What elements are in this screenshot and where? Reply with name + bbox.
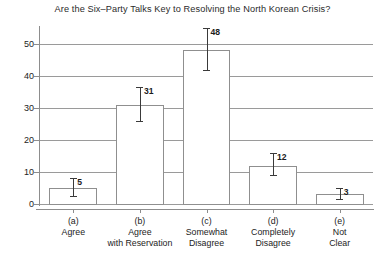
x-axis-tick [340, 209, 341, 213]
x-axis-tick-label: (d)CompletelyDisagree [251, 216, 295, 249]
bar-value-label: 31 [144, 86, 154, 96]
y-axis-tick-label: 40 [6, 71, 34, 81]
x-axis-label-line: Somewhat [186, 227, 228, 238]
error-bar-line [340, 188, 341, 199]
error-bar-cap-bottom [70, 196, 77, 197]
error-bar-line [73, 178, 74, 196]
y-axis-tick [34, 108, 39, 109]
x-axis-label-line: (b) [107, 216, 172, 227]
y-axis-tick-label: 0 [6, 199, 34, 209]
y-axis-tick [34, 76, 39, 77]
error-bar-cap-bottom [270, 175, 277, 176]
x-axis-label-line: with Reservation [107, 238, 172, 249]
bar [183, 50, 231, 205]
y-axis-tick-label: 50 [6, 39, 34, 49]
y-axis-tick-label: 10 [6, 167, 34, 177]
bar-value-label: 12 [277, 152, 287, 162]
x-axis-tick [273, 209, 274, 213]
bar-value-label: 5 [77, 177, 82, 187]
x-axis-label-line: (c) [186, 216, 228, 227]
plot-area: 53148123 [40, 28, 373, 204]
x-axis-label-line: (d) [251, 216, 295, 227]
x-axis-label-line: Completely [251, 227, 295, 238]
bar-value-label: 3 [344, 187, 349, 197]
error-bar-cap-top [336, 188, 343, 189]
x-axis-tick [207, 209, 208, 213]
error-bar-cap-bottom [336, 199, 343, 200]
chart-title: Are the Six–Party Talks Key to Resolving… [0, 4, 385, 14]
x-axis-tick [140, 209, 141, 213]
bar-value-label: 48 [211, 27, 221, 37]
x-axis-label-line: (a) [62, 216, 85, 227]
x-axis-label-line: Clear [329, 238, 350, 249]
error-bar-cap-top [203, 28, 210, 29]
y-axis-tick [34, 172, 39, 173]
error-bar-line [273, 153, 274, 175]
x-axis-tick-label: (b)Agreewith Reservation [107, 216, 172, 249]
y-axis-tick [34, 44, 39, 45]
y-axis-tick [34, 204, 39, 205]
x-axis-line [36, 209, 374, 210]
x-axis-label-line: (e) [329, 216, 350, 227]
x-axis-label-line: Agree [107, 227, 172, 238]
x-axis-tick-label: (e)NotClear [329, 216, 350, 249]
y-axis-tick-label: 30 [6, 103, 34, 113]
error-bar-cap-top [136, 87, 143, 88]
y-axis-labels: 01020304050 [0, 0, 34, 258]
x-axis-tick [73, 209, 74, 213]
y-axis-tick-label: 20 [6, 135, 34, 145]
error-bar-cap-top [70, 178, 77, 179]
chart-container: Are the Six–Party Talks Key to Resolving… [0, 0, 385, 258]
error-bar-line [140, 87, 141, 121]
x-axis-label-line: Not [329, 227, 350, 238]
error-bar-cap-top [270, 153, 277, 154]
x-axis-label-line: Disagree [186, 238, 228, 249]
error-bar-line [207, 28, 208, 70]
x-axis-label-line: Agree [62, 227, 85, 238]
error-bar-cap-bottom [136, 121, 143, 122]
x-axis-label-line: Disagree [251, 238, 295, 249]
x-axis-tick-label: (a)Agree [62, 216, 85, 238]
y-axis-tick [34, 140, 39, 141]
x-axis-tick-label: (c)SomewhatDisagree [186, 216, 228, 249]
error-bar-cap-bottom [203, 70, 210, 71]
